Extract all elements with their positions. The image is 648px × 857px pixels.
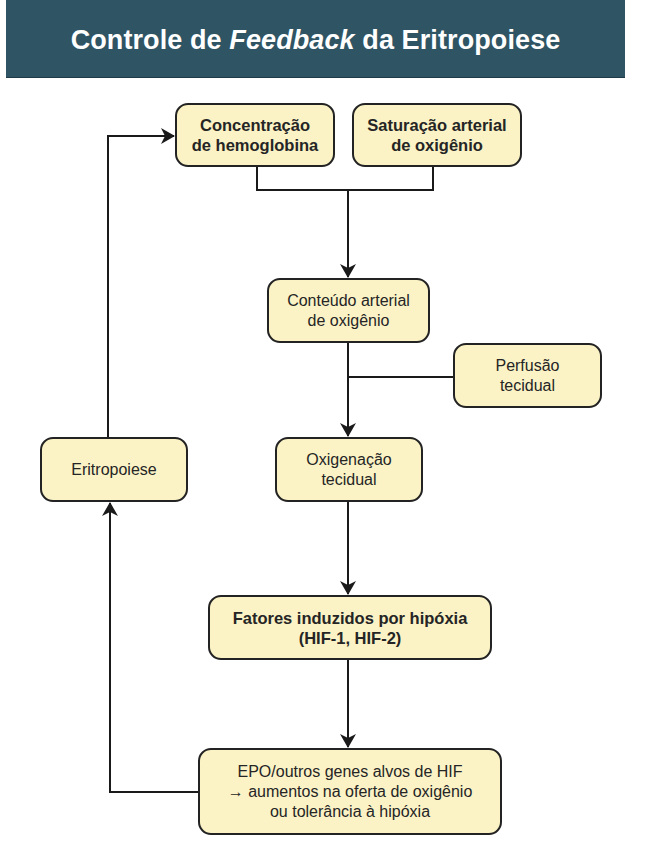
feedback-epo-to-erythropoiesis: [110, 503, 199, 792]
node-label-line: tecidual: [321, 470, 376, 490]
feedback-erythropoiesis-to-hemoglobin: [108, 136, 174, 437]
node-label-line: tecidual: [500, 376, 555, 396]
node-tissue-perfusion: Perfusão tecidual: [453, 343, 602, 408]
bracket-top-boxes: [257, 166, 433, 190]
node-label-line: Perfusão: [495, 356, 559, 376]
node-tissue-oxygenation: Oxigenação tecidual: [275, 437, 423, 502]
node-label-line: ou tolerância à hipóxia: [270, 802, 430, 822]
node-hypoxia-inducible-factors: Fatores induzidos por hipóxia (HIF-1, HI…: [208, 595, 492, 660]
node-label-line: de oxigênio: [308, 311, 390, 331]
node-erythropoiesis: Eritropoiese: [40, 437, 188, 502]
node-label-line: Oxigenação: [306, 450, 391, 470]
node-arterial-oxygen-content: Conteúdo arterial de oxigênio: [267, 278, 430, 343]
node-hemoglobin-concentration: Concentração de hemoglobina: [175, 103, 335, 167]
node-label-line: Conteúdo arterial: [287, 291, 410, 311]
node-label-line: Saturação arterial: [367, 115, 506, 135]
node-epo-target-genes: EPO/outros genes alvos de HIF → aumentos…: [198, 748, 502, 835]
node-label-line: → aumentos na oferta de oxigênio: [228, 782, 473, 802]
node-label-line: Concentração: [200, 115, 310, 135]
node-label-line: Fatores induzidos por hipóxia: [233, 608, 468, 628]
node-label-line: (HIF-1, HIF-2): [299, 628, 402, 648]
node-oxygen-saturation: Saturação arterial de oxigênio: [352, 103, 522, 167]
node-label-line: Eritropoiese: [71, 460, 156, 480]
node-label-line: EPO/outros genes alvos de HIF: [238, 762, 463, 782]
node-label-line: de oxigênio: [391, 135, 483, 155]
node-label-line: de hemoglobina: [192, 135, 319, 155]
